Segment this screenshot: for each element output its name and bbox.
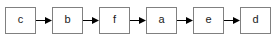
- node-chain: c b f a: [5, 6, 271, 34]
- node-label: d: [252, 14, 258, 25]
- flow-diagram: c b f a: [0, 0, 279, 38]
- node-label: b: [64, 14, 70, 25]
- node-f[interactable]: f: [99, 7, 130, 34]
- arrow-right-icon: [177, 16, 193, 25]
- node-b[interactable]: b: [52, 7, 83, 34]
- node-c[interactable]: c: [5, 7, 36, 34]
- node-label: f: [113, 14, 116, 25]
- node-label: c: [18, 14, 24, 25]
- arrow-right-icon: [130, 16, 146, 25]
- node-a[interactable]: a: [146, 7, 177, 34]
- node-d[interactable]: d: [240, 7, 271, 34]
- arrow-right-icon: [224, 16, 240, 25]
- arrow-right-icon: [83, 16, 99, 25]
- node-e[interactable]: e: [193, 7, 224, 34]
- arrow-right-icon: [36, 16, 52, 25]
- node-label: e: [205, 14, 211, 25]
- node-label: a: [158, 14, 164, 25]
